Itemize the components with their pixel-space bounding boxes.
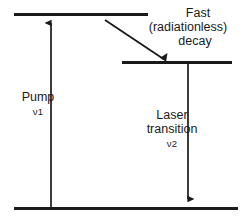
energy-level-diagram: Fast (radiationless) decay Pump ν1 Laser… bbox=[0, 0, 248, 219]
laser-label-line2: transition bbox=[134, 122, 210, 136]
decay-label-line2: (radiationless) bbox=[132, 20, 244, 34]
laser-label-line1: Laser bbox=[134, 108, 210, 122]
decay-label-line1: Fast bbox=[132, 6, 244, 20]
decay-label-line3: decay bbox=[132, 34, 244, 48]
laser-frequency-label: ν2 bbox=[134, 139, 210, 150]
pump-frequency-label: ν1 bbox=[10, 107, 66, 118]
decay-label: Fast (radiationless) decay bbox=[132, 6, 244, 48]
pump-label: Pump ν1 bbox=[10, 90, 66, 118]
laser-transition-label: Laser transition ν2 bbox=[134, 108, 210, 150]
pump-label-text: Pump bbox=[10, 90, 66, 104]
